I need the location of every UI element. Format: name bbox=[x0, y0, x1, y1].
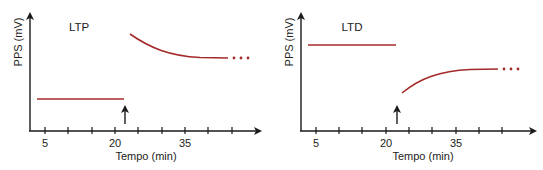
ltd-tick-label-5: 5 bbox=[313, 137, 319, 149]
ltd-depression-curve bbox=[402, 69, 498, 93]
ltd-title: LTD bbox=[342, 21, 363, 33]
ltd-y-label: PPS (mV) bbox=[283, 18, 295, 67]
ltd-x-label: Tempo (min) bbox=[392, 150, 453, 162]
ltp-tick-label-35: 35 bbox=[179, 137, 191, 149]
ltp-title: LTP bbox=[69, 21, 90, 33]
ltd-tick-label-20: 20 bbox=[380, 137, 392, 149]
ltp-tick-label-20: 20 bbox=[109, 137, 121, 149]
ltd-tick-label-35: 35 bbox=[450, 137, 462, 149]
diagram-canvas: 5 20 35 Tempo (min) PPS (mV) LTP bbox=[0, 0, 543, 170]
ltd-continuation-ellipsis-icon bbox=[503, 68, 520, 71]
ltd-panel: 5 20 35 Tempo (min) PPS (mV) LTD bbox=[283, 14, 535, 162]
ltp-panel: 5 20 35 Tempo (min) PPS (mV) LTP bbox=[12, 14, 260, 162]
ltp-tick-label-5: 5 bbox=[42, 137, 48, 149]
ltp-y-label: PPS (mV) bbox=[12, 18, 24, 67]
ltp-potentiation-curve bbox=[130, 34, 228, 58]
ltp-continuation-ellipsis-icon bbox=[233, 57, 250, 60]
ltp-x-label: Tempo (min) bbox=[115, 150, 176, 162]
